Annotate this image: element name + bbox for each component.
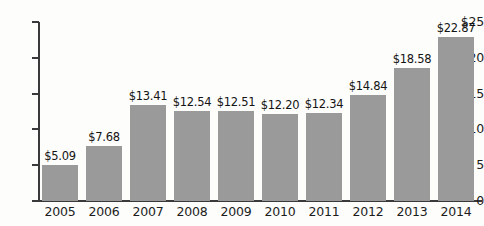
bar — [218, 111, 254, 201]
bar — [438, 37, 474, 201]
bar — [42, 165, 78, 201]
bar-chart: $2520151050 $5.09$7.68$13.41$12.54$12.51… — [0, 0, 484, 226]
x-axis-category-label: 2014 — [426, 206, 484, 219]
y-axis-tick — [32, 57, 39, 59]
bar — [262, 114, 298, 201]
bar — [130, 105, 166, 201]
bar-value-label: $7.68 — [74, 132, 134, 144]
bar-value-label: $14.84 — [338, 81, 398, 93]
bar — [306, 113, 342, 201]
y-axis-tick — [32, 93, 39, 95]
bar — [350, 95, 386, 201]
bar — [394, 68, 430, 201]
bar — [86, 146, 122, 201]
bar-value-label: $12.34 — [294, 99, 354, 111]
y-axis-line — [38, 22, 40, 202]
bar-value-label: $22.87 — [426, 23, 484, 35]
bar-value-label: $18.58 — [382, 54, 442, 66]
y-axis-tick — [32, 164, 39, 166]
y-axis-tick — [32, 128, 39, 130]
bar-value-label: $5.09 — [30, 151, 90, 163]
y-axis-tick — [32, 200, 39, 202]
bar — [174, 111, 210, 201]
y-axis-tick — [32, 21, 39, 23]
